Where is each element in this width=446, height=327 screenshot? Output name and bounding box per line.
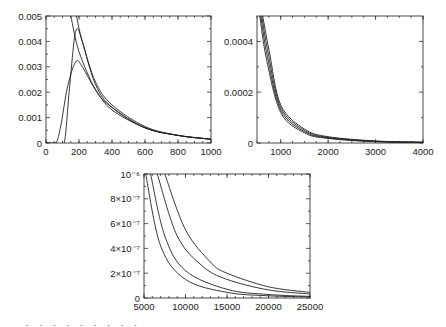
x-tick-label: 200 xyxy=(71,146,87,157)
x-tick-label: 1000 xyxy=(200,146,221,157)
x-tick-label: 25000 xyxy=(297,301,323,312)
y-tick-label: 2×10⁻⁷ xyxy=(110,268,140,279)
y-tick-label: 0.0002 xyxy=(224,87,253,98)
series-line xyxy=(263,16,423,142)
series-line xyxy=(151,174,310,296)
chart-3: 50001000015000200002500002×10⁻⁷4×10⁻⁷6×1… xyxy=(110,169,323,313)
chart-2: 100020003000400000.00020.0004 xyxy=(224,16,434,157)
x-tick-label: 1000 xyxy=(270,146,291,157)
series-line xyxy=(260,16,423,143)
x-tick-label: 4000 xyxy=(412,146,433,157)
x-tick-label: 10000 xyxy=(172,301,198,312)
x-tick-label: 2000 xyxy=(318,146,339,157)
series-line xyxy=(46,29,211,147)
figure-panels: 0200400600800100000.0010.0020.0030.0040.… xyxy=(0,0,446,327)
y-tick-label: 4×10⁻⁷ xyxy=(110,243,140,254)
x-tick-label: 800 xyxy=(170,146,186,157)
y-tick-label: 10⁻⁶ xyxy=(121,169,141,180)
series-line xyxy=(146,174,310,297)
series-line xyxy=(68,3,212,139)
series-line xyxy=(75,3,211,139)
y-tick-label: 0 xyxy=(248,138,253,149)
y-tick-label: 0.001 xyxy=(18,112,42,123)
plot-frame xyxy=(257,16,423,143)
y-tick-label: 0.004 xyxy=(18,36,42,47)
y-tick-label: 6×10⁻⁷ xyxy=(110,218,140,229)
y-tick-label: 0.003 xyxy=(18,61,42,72)
y-tick-label: 0 xyxy=(135,293,140,304)
series-line xyxy=(261,16,423,143)
x-tick-label: 3000 xyxy=(365,146,386,157)
y-tick-label: 0 xyxy=(37,138,42,149)
x-tick-label: 400 xyxy=(104,146,120,157)
x-tick-label: 15000 xyxy=(214,301,240,312)
series-line xyxy=(165,174,310,292)
x-tick-label: 0 xyxy=(43,146,48,157)
chart-1: 0200400600800100000.0010.0020.0030.0040.… xyxy=(18,3,221,157)
x-tick-label: 600 xyxy=(137,146,153,157)
y-tick-label: 0.0004 xyxy=(224,36,253,47)
y-tick-label: 0.002 xyxy=(18,87,42,98)
caption-fragment: · · · · · · · · · xyxy=(26,320,141,327)
y-tick-label: 8×10⁻⁷ xyxy=(110,193,140,204)
y-tick-label: 0.005 xyxy=(18,11,42,22)
x-tick-label: 20000 xyxy=(255,301,281,312)
series-line xyxy=(46,60,211,144)
series-line xyxy=(262,16,423,142)
